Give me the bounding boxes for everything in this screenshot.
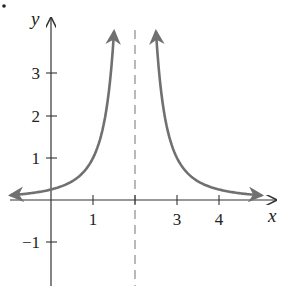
x-tick-label-4: 4: [215, 210, 224, 229]
y-axis-label: y: [29, 8, 40, 29]
y-tick-label-3: 3: [32, 64, 41, 83]
y-tick-label-neg1: −1: [22, 233, 40, 252]
x-tick-label-3: 3: [173, 210, 182, 229]
curve-right-branch: [156, 32, 261, 195]
corner-dot: [2, 4, 6, 8]
x-tick-label-1: 1: [89, 210, 98, 229]
y-tick-label-1: 1: [32, 149, 41, 168]
y-tick-label-2: 2: [32, 107, 41, 126]
graph: 1 3 4 3 2 1 −1 x y: [0, 0, 290, 288]
x-axis-label: x: [267, 205, 277, 226]
curve-left-branch: [11, 32, 114, 195]
